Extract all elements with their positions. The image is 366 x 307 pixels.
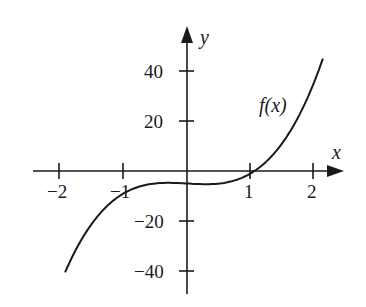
x-tick-label: 1: [244, 181, 254, 202]
y-tick-label: 20: [144, 111, 163, 132]
x-tick-label: 2: [307, 181, 317, 202]
curve-label: f(x): [259, 94, 287, 117]
y-tick-label: −20: [134, 211, 164, 232]
y-axis-label: y: [198, 26, 209, 49]
x-axis-arrow-icon: [327, 165, 344, 177]
y-tick-label: 40: [144, 61, 163, 82]
x-tick-label: −2: [47, 181, 67, 202]
y-tick-label: −40: [134, 261, 164, 282]
function-plot: −2 −1 1 2 40 20 −20 −40 y x f(x): [0, 0, 366, 307]
x-axis-label: x: [331, 141, 341, 163]
y-axis-arrow-icon: [181, 26, 193, 43]
function-curve: [65, 59, 323, 273]
